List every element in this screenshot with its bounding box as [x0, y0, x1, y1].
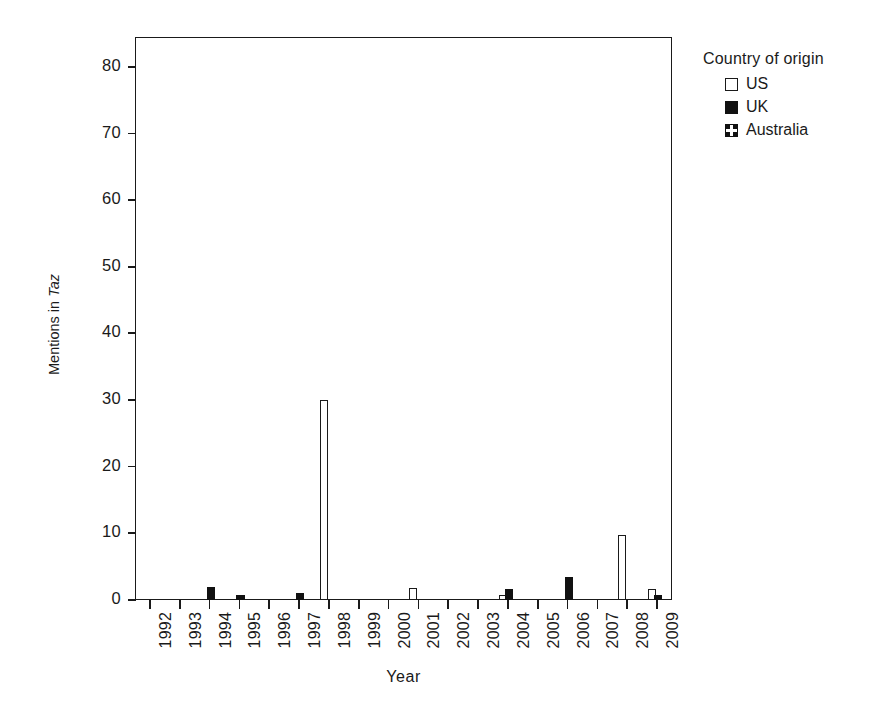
x-tick-mark	[268, 600, 270, 609]
x-tick-label: 2008	[634, 612, 652, 648]
bar-uk-2009	[654, 595, 662, 600]
y-tick-label: 10	[102, 522, 121, 541]
y-tick-mark	[128, 332, 136, 334]
plot-area	[135, 37, 672, 600]
x-tick-mark	[239, 600, 241, 609]
x-tick-mark	[358, 600, 360, 609]
bar-us-1998	[320, 400, 328, 600]
y-tick-label: 80	[102, 56, 121, 75]
x-tick-mark	[328, 600, 330, 609]
x-tick-mark	[209, 600, 211, 609]
y-tick-label: 30	[102, 389, 121, 408]
x-tick-mark	[447, 600, 449, 609]
x-tick-label: 2002	[455, 612, 473, 648]
x-tick-label: 1998	[336, 612, 354, 648]
x-tick-label: 2009	[664, 612, 682, 648]
y-axis: 01020304050607080	[0, 0, 135, 640]
x-tick-label: 1994	[217, 612, 235, 648]
legend-title: Country of origin	[703, 50, 871, 68]
legend-items: USUKAustralia	[703, 75, 871, 139]
x-tick-label: 2004	[515, 612, 533, 648]
y-axis-title: Mentions in Taz	[46, 355, 62, 375]
x-tick-mark	[149, 600, 151, 609]
x-tick-mark	[507, 600, 509, 609]
y-tick-mark	[128, 532, 136, 534]
legend-item-us[interactable]: US	[725, 75, 871, 93]
y-axis-title-plain: Mentions in	[46, 296, 62, 374]
x-tick-label: 2007	[604, 612, 622, 648]
bar-uk-1994	[207, 587, 215, 600]
y-axis-title-italic: Taz	[46, 273, 62, 296]
x-tick-label: 2001	[425, 612, 443, 648]
bar-uk-2006	[565, 577, 573, 600]
x-tick-mark	[567, 600, 569, 609]
legend-label: Australia	[746, 121, 808, 139]
x-tick-mark	[298, 600, 300, 609]
y-tick-mark	[128, 133, 136, 135]
y-tick-mark	[128, 466, 136, 468]
legend-item-uk[interactable]: UK	[725, 98, 871, 116]
y-tick-mark	[128, 199, 136, 201]
x-tick-label: 2003	[485, 612, 503, 648]
y-tick-mark	[128, 266, 136, 268]
y-tick-label: 40	[102, 322, 121, 341]
bar-uk-2004	[505, 589, 513, 600]
x-tick-label: 1996	[276, 612, 294, 648]
y-tick-label: 70	[102, 123, 121, 142]
legend-swatch-icon	[725, 124, 738, 137]
x-tick-label: 1997	[306, 612, 324, 648]
x-tick-label: 1995	[246, 612, 264, 648]
y-tick-mark	[128, 599, 136, 601]
x-tick-mark	[477, 600, 479, 609]
y-tick-mark	[128, 66, 136, 68]
x-tick-mark	[388, 600, 390, 609]
bar-chart-figure: 01020304050607080 Mentions in Taz 199219…	[0, 0, 875, 707]
legend-label: US	[746, 75, 768, 93]
x-tick-label: 1999	[366, 612, 384, 648]
x-tick-mark	[537, 600, 539, 609]
x-tick-label: 1993	[187, 612, 205, 648]
x-tick-mark	[597, 600, 599, 609]
x-tick-mark	[656, 600, 658, 609]
y-tick-label: 50	[102, 256, 121, 275]
legend: Country of origin USUKAustralia	[703, 50, 871, 144]
y-tick-label: 60	[102, 189, 121, 208]
y-tick-label: 20	[102, 456, 121, 475]
bar-uk-1995	[236, 595, 244, 600]
legend-label: UK	[746, 98, 768, 116]
x-tick-label: 2005	[545, 612, 563, 648]
x-tick-mark	[418, 600, 420, 609]
legend-swatch-icon	[725, 101, 738, 114]
x-tick-label: 1992	[157, 612, 175, 648]
bar-us-2001	[409, 588, 417, 600]
x-axis-title: Year	[135, 668, 672, 686]
x-tick-mark	[626, 600, 628, 609]
bar-uk-1997	[296, 593, 304, 600]
x-tick-mark	[179, 600, 181, 609]
legend-item-australia[interactable]: Australia	[725, 121, 871, 139]
legend-swatch-icon	[725, 78, 738, 91]
bar-us-2008	[618, 535, 626, 600]
y-tick-mark	[128, 399, 136, 401]
x-tick-label: 2000	[396, 612, 414, 648]
x-tick-label: 2006	[575, 612, 593, 648]
y-tick-label: 0	[112, 589, 121, 608]
